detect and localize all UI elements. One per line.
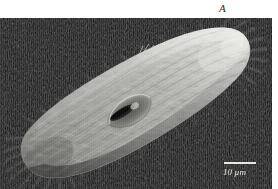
- micrograph-image: 10 µm: [0, 18, 272, 189]
- plate-halftone-overlay: [0, 18, 272, 189]
- figure-panel: A: [0, 0, 278, 189]
- micrograph-canvas: [0, 18, 272, 189]
- panel-letter-label: A: [219, 0, 239, 16]
